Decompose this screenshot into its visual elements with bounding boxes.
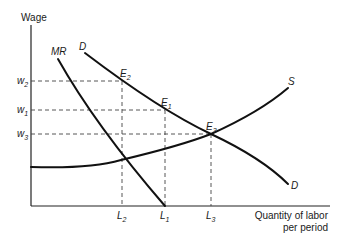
supply-label: S	[288, 76, 295, 87]
x-axis-label-line1: Quantity of labor	[255, 210, 329, 221]
x-axis-label-line2: per period	[283, 222, 328, 233]
x-tick-labels: L2 L1 L3	[117, 210, 216, 223]
w2-label: w2	[17, 75, 28, 88]
axes: Wage Quantity of labor per period	[21, 12, 330, 233]
curves	[31, 53, 288, 206]
y-tick-labels: w2 w1 w3	[17, 75, 28, 141]
point-labels: E2 E1 E3	[120, 68, 217, 134]
l3-label: L3	[206, 210, 216, 223]
monopsony-labor-market-diagram: Wage Quantity of labor per period MR D D…	[0, 0, 345, 239]
y-axis-label: Wage	[21, 12, 47, 23]
l2-label: L2	[117, 210, 127, 223]
demand-curve	[85, 53, 288, 184]
demand-label-start: D	[79, 41, 86, 52]
mr-label: MR	[51, 46, 67, 57]
demand-label-end: D	[291, 180, 298, 191]
curve-labels: MR D D S	[51, 41, 298, 191]
w3-label: w3	[17, 128, 28, 141]
w1-label: w1	[17, 104, 28, 117]
l1-label: L1	[160, 210, 170, 223]
